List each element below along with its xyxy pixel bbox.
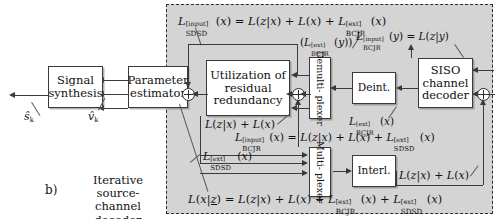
deinterleaver-line1: Deint.	[358, 81, 390, 93]
wire-interl-corner	[396, 171, 397, 186]
arrowhead-feed-up-mid-adder	[295, 99, 301, 105]
utilization-line3: redundancy	[213, 93, 282, 107]
equation-lzx-lx-right: L(z|x) + L(x)	[399, 169, 469, 182]
block-siso-channel-decoder[interactable]: SISO channel decoder	[418, 58, 473, 108]
wire-deint-to-demux	[336, 88, 353, 89]
equation-lzx-lx-left: L(z|x) + L(x)	[205, 118, 275, 131]
parameter-estimator-line2: estimator	[130, 86, 186, 100]
label-v-hat: v̂k	[88, 110, 98, 124]
arrowhead-bypass-down-left	[185, 82, 191, 88]
demultiplexer-line2: plexer	[315, 95, 326, 125]
wire-siso-to-deint	[402, 88, 419, 89]
block-demultiplexer[interactable]: Demulti- plexer	[309, 57, 331, 119]
arrowhead-demux-to-adder	[300, 91, 306, 97]
arrowhead-deint-to-demux	[330, 85, 336, 91]
figure-canvas: Signal synthesis Parameter estimator ŝk …	[0, 0, 498, 219]
block-multiplexer[interactable]: Multi- plexer	[309, 147, 331, 197]
interleaver-line1: Interl.	[357, 164, 390, 176]
block-deinterleaver[interactable]: Deint.	[352, 72, 396, 104]
figure-caption: Iterative source- channel decoder	[72, 174, 164, 219]
block-parameter-estimator[interactable]: Parameter estimator	[128, 66, 188, 108]
multiplexer-line1: Multi-	[315, 141, 326, 170]
part-label-b: b)	[45, 183, 57, 197]
wire-channel-in-adder	[485, 94, 495, 95]
arrowhead-mux-in-1	[302, 152, 308, 158]
wire-est-to-syn-2	[103, 94, 128, 95]
equation-bcjr-input-x: L BCJR [input] (x) = L(z|x) + L(x) + L S…	[235, 131, 435, 144]
block-signal-synthesis[interactable]: Signal synthesis	[48, 66, 103, 108]
caption-line-1: Iterative source-	[93, 173, 143, 200]
arrowhead-adder-to-util	[286, 91, 292, 97]
arrowhead-output-shat	[9, 92, 15, 98]
wire-channel-in-top	[478, 70, 494, 71]
arrowhead-channel-in-top	[472, 67, 478, 73]
arrowhead-mux-to-interl	[346, 168, 352, 174]
wire-bypass-up-right	[297, 44, 298, 76]
siso-line3: decoder	[422, 88, 469, 102]
v-hat-sub: k	[94, 116, 98, 124]
block-utilization-residual-redundancy[interactable]: Utilization of residual redundancy	[206, 60, 290, 116]
arrowhead-mux-in-2	[302, 160, 308, 166]
equation-bcjr-input-y: L BCJR [input] (y) = L(z|y)	[356, 30, 449, 42]
block-interleaver[interactable]: Interl.	[352, 155, 396, 187]
arrowhead-feed-up-right-adder	[480, 99, 486, 105]
equation-bcjr-ext-y: (L BCJR [ext] (y))	[300, 36, 352, 48]
wire-bypass-top	[188, 44, 298, 45]
equation-sdsd-ext-x: L SDSD [ext] (x)	[203, 150, 252, 163]
arrowhead-siso-to-deint	[396, 85, 402, 91]
wire-output-shat	[14, 95, 48, 96]
arrowhead-demux-lower	[291, 105, 297, 111]
wire-est-to-syn-3	[103, 108, 128, 109]
equation-aposteriori: L(x|z) = L(z|x) + L(x) + L BCJR [ext] (x…	[188, 192, 442, 206]
caption-line-2: channel decoder	[94, 199, 141, 219]
wire-est-to-syn-1	[103, 80, 128, 81]
arrowhead-util-to-left-adder	[192, 91, 198, 97]
wire-util-to-mux-c	[200, 173, 304, 174]
wire-interl-to-right	[396, 185, 483, 186]
equation-sdsd-input: L SDSD [input] (x) = L(z|x) + L(x) + L B…	[178, 14, 386, 28]
arrowhead-bcjr-input-y-pointer	[408, 44, 414, 50]
label-s-hat: ŝk	[24, 110, 34, 124]
s-hat-sub: k	[30, 116, 34, 124]
wire-feed-up-right-adder	[483, 101, 484, 185]
arrowhead-mux-in-3	[302, 170, 308, 176]
arrowhead-siso-in-bottom	[472, 91, 478, 97]
signal-synthesis-line2: synthesis	[48, 86, 102, 100]
wire-demux-to-util-top	[297, 75, 310, 76]
